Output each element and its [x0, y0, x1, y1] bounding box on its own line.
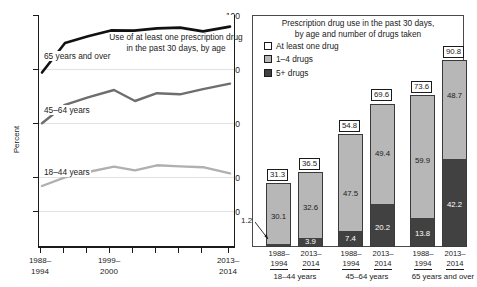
- bar-total-65-plus-1988-1994: 73.6: [411, 81, 432, 93]
- bar-value-5plus-65-plus-2013-2014: 42.2: [443, 200, 466, 209]
- bar-x-label-65-plus-2013-2014-line1: 2013–: [444, 249, 465, 258]
- x-tick-3: [109, 247, 110, 253]
- x-axis-label-1999-2000-line1: 1999–: [98, 256, 120, 265]
- bar-65-plus-1988-1994[interactable]: 13.8 59.9: [410, 95, 435, 247]
- bar-x-label-45-64-1988-1994-line1: 1988–: [340, 249, 361, 258]
- legend-label-one-to-four-drugs: 1–4 drugs: [276, 54, 313, 64]
- bar-x-label-65-plus-1988-1994: 1988– 1994: [406, 249, 440, 270]
- legend-swatch-at-least-one-drug: [264, 42, 272, 50]
- bar-chart-title-line1: Prescription drug use in the past 30 day…: [282, 18, 435, 28]
- bar-value-1-4-65-plus-2013-2014: 48.7: [443, 91, 466, 100]
- bar-x-label-18-44-2013-2014-line2: 2014: [302, 259, 321, 270]
- bar-chart-legend: At least one drug 1–4 drugs 5+ drugs: [264, 40, 339, 81]
- series-line-45-64: [42, 84, 230, 124]
- bar-x-label-65-plus-2013-2014-line2: 2014: [446, 259, 465, 270]
- bar-value-5plus-65-plus-1988-1994: 13.8: [411, 229, 434, 238]
- bar-value-1-4-65-plus-1988-1994: 59.9: [411, 156, 434, 165]
- x-axis-label-1988-1994-line2: 1994: [31, 267, 49, 276]
- x-axis-label-1999-2000: 1999– 2000: [87, 256, 131, 278]
- bar-x-label-18-44-1988-1994: 1988– 1994: [262, 249, 296, 270]
- bar-value-1-4-18-44-2013-2014: 32.6: [299, 203, 322, 212]
- bar-value-1-4-45-64-2013-2014: 49.4: [371, 149, 394, 158]
- legend-item-five-plus-drugs[interactable]: 5+ drugs: [264, 67, 339, 79]
- bar-chart-panel: Prescription drug use in the past 30 day…: [240, 0, 477, 287]
- bar-x-label-45-64-2013-2014-line1: 2013–: [372, 249, 393, 258]
- callout-leader-line: [255, 222, 285, 244]
- bar-x-label-45-64-1988-1994: 1988– 1994: [334, 249, 368, 270]
- bar-chart-title: Prescription drug use in the past 30 day…: [258, 18, 458, 40]
- bar-65-plus-2013-2014[interactable]: 42.2 48.7: [442, 60, 467, 247]
- bar-chart-title-line2: by age and number of drugs taken: [295, 29, 421, 39]
- line-chart-title-line1: Use of at least one prescription drug: [109, 32, 242, 42]
- bar-x-label-18-44-1988-1994-line2: 1994: [270, 259, 289, 270]
- bar-total-18-44-2013-2014: 36.5: [299, 158, 320, 170]
- bar-value-5plus-45-64-1988-1994: 7.4: [339, 234, 362, 243]
- bar-value-1-4-18-44-1988-1994: 30.1: [267, 212, 290, 221]
- bar-value-5plus-45-64-2013-2014: 20.2: [371, 223, 394, 232]
- x-axis-line: [38, 246, 235, 248]
- bar-total-65-plus-2013-2014: 90.8: [443, 46, 464, 58]
- callout-value-1-2: 1.2: [241, 216, 252, 225]
- bar-total-45-64-2013-2014: 69.6: [371, 89, 392, 101]
- legend-item-one-to-four-drugs[interactable]: 1–4 drugs: [264, 54, 339, 66]
- series-label-65-and-over: 65 years and over: [43, 51, 111, 61]
- legend-label-five-plus-drugs: 5+ drugs: [276, 68, 309, 78]
- x-tick-2: [86, 247, 87, 253]
- bar-value-5plus-18-44-2013-2014: 3.9: [299, 237, 322, 246]
- bar-total-18-44-1988-1994: 31.3: [267, 169, 288, 181]
- legend-label-at-least-one-drug: At least one drug: [276, 41, 339, 51]
- bar-x-label-65-plus-1988-1994-line2: 1994: [414, 259, 433, 270]
- bar-x-label-65-plus-2013-2014: 2013– 2014: [438, 249, 472, 270]
- legend-item-at-least-one-drug[interactable]: At least one drug: [264, 40, 339, 52]
- x-tick-7: [201, 247, 202, 253]
- bar-18-44-2013-2014[interactable]: 3.9 32.6: [298, 172, 323, 247]
- bar-value-1-4-45-64-1988-1994: 47.5: [339, 189, 362, 198]
- x-tick-5: [155, 247, 156, 253]
- x-axis-label-2013-2014-line1: 2013–: [217, 256, 239, 265]
- bar-x-label-45-64-2013-2014-line2: 2014: [374, 259, 393, 270]
- line-chart-panel: Percent 100 80 60 40 20: [0, 0, 240, 287]
- y-axis-title: Percent: [12, 110, 21, 170]
- bar-45-64-1988-1994[interactable]: 7.4 47.5: [338, 134, 363, 247]
- bar-group-label-18-44: 18–44 years: [260, 272, 330, 281]
- legend-swatch-one-to-four-drugs: [264, 55, 272, 63]
- x-axis-label-1988-1994-line1: 1988–: [29, 256, 51, 265]
- series-label-45-64: 45–64 years: [43, 105, 91, 115]
- line-plot-area: Use of at least one prescription drug in…: [38, 15, 235, 247]
- line-chart-title-line2: in the past 30 days, by age: [126, 43, 225, 53]
- bar-x-label-18-44-2013-2014-line1: 2013–: [300, 249, 321, 258]
- bar-x-label-65-plus-1988-1994-line1: 1988–: [412, 249, 433, 258]
- x-tick-8: [228, 247, 229, 253]
- x-axis-label-1988-1994: 1988– 1994: [18, 256, 62, 278]
- x-tick-4: [132, 247, 133, 253]
- x-tick-1: [63, 247, 64, 253]
- legend-swatch-five-plus-drugs: [264, 69, 272, 77]
- bar-45-64-2013-2014[interactable]: 20.2 49.4: [370, 104, 395, 248]
- bar-x-label-18-44-2013-2014: 2013– 2014: [294, 249, 328, 270]
- x-tick-0: [40, 247, 41, 253]
- x-axis-label-2013-2014-line2: 2014: [219, 267, 237, 276]
- prescription-drug-use-figure: Percent 100 80 60 40 20: [0, 0, 477, 287]
- x-tick-6: [178, 247, 179, 253]
- series-label-18-44: 18–44 years: [43, 167, 91, 177]
- bar-group-label-65-plus: 65 years and over: [399, 272, 477, 281]
- bar-x-label-45-64-2013-2014: 2013– 2014: [366, 249, 400, 270]
- bar-total-45-64-1988-1994: 54.8: [339, 120, 360, 132]
- bar-group-label-45-64: 45–64 years: [332, 272, 402, 281]
- x-axis-label-1999-2000-line2: 2000: [100, 267, 118, 276]
- bar-x-label-18-44-1988-1994-line1: 1988–: [268, 249, 289, 258]
- bar-x-label-45-64-1988-1994-line2: 1994: [342, 259, 361, 270]
